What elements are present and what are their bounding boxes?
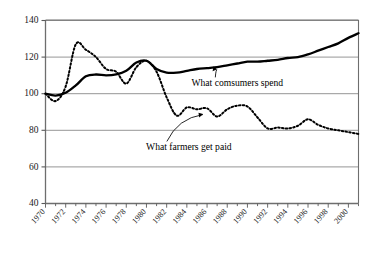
x-tick-label-1978: 1978: [110, 207, 128, 225]
x-tick-label-1970: 1970: [29, 207, 47, 225]
x-tick-label-1988: 1988: [211, 207, 229, 225]
x-tick-label-1972: 1972: [50, 207, 68, 225]
x-tick-label-group-1994: 1994: [272, 207, 290, 225]
x-tick-label-group-1980: 1980: [130, 207, 148, 225]
x-tick-label-group-1970: 1970: [29, 207, 47, 225]
x-tick-label-group-1986: 1986: [191, 207, 209, 225]
x-tick-label-1982: 1982: [151, 207, 169, 225]
annotation-arrowhead-farmers: [198, 113, 203, 118]
x-tick-label-1996: 1996: [292, 207, 310, 225]
x-tick-label-group-1976: 1976: [90, 207, 108, 225]
x-tick-label-1976: 1976: [90, 207, 108, 225]
chart-container: 406080100120140 197019721974197619781980…: [0, 0, 376, 262]
y-tick-label-80: 80: [29, 125, 39, 135]
annotation-label-farmers: What farmers get paid: [146, 141, 232, 152]
x-tick-label-group-1998: 1998: [312, 207, 330, 225]
x-tick-label-1990: 1990: [231, 207, 249, 225]
series-annotations: What comsumers spendWhat farmers get pai…: [146, 66, 283, 152]
x-tick-label-1980: 1980: [130, 207, 148, 225]
x-tick-label-1984: 1984: [171, 207, 189, 225]
y-tick-label-40: 40: [29, 198, 39, 208]
x-tick-label-1992: 1992: [251, 207, 269, 225]
line-chart: 406080100120140 197019721974197619781980…: [0, 0, 376, 262]
y-tick-label-60: 60: [29, 162, 39, 172]
x-axis-tick-labels: 1970197219741976197819801982198419861988…: [29, 207, 350, 225]
x-tick-label-group-1992: 1992: [251, 207, 269, 225]
x-tick-label-2000: 2000: [332, 207, 350, 225]
x-tick-label-1986: 1986: [191, 207, 209, 225]
x-tick-label-group-1982: 1982: [151, 207, 169, 225]
x-tick-label-group-1978: 1978: [110, 207, 128, 225]
y-tick-label-100: 100: [24, 88, 39, 98]
x-tick-label-group-1974: 1974: [70, 207, 88, 225]
x-tick-label-group-1990: 1990: [231, 207, 249, 225]
annotation-arrow-consumers: [215, 70, 217, 78]
x-tick-label-1994: 1994: [272, 207, 290, 225]
x-tick-label-1998: 1998: [312, 207, 330, 225]
annotation-arrow-farmers: [167, 115, 203, 142]
x-tick-label-group-1972: 1972: [50, 207, 68, 225]
y-tick-label-140: 140: [24, 15, 39, 25]
y-tick-label-120: 120: [24, 52, 39, 62]
x-tick-label-group-2000: 2000: [332, 207, 350, 225]
x-tick-label-group-1984: 1984: [171, 207, 189, 225]
annotation-consumers: What comsumers spend: [192, 66, 284, 88]
x-tick-label-1974: 1974: [70, 207, 88, 225]
annotation-farmers: What farmers get paid: [146, 113, 232, 153]
annotation-label-consumers: What comsumers spend: [192, 77, 284, 88]
x-tick-label-group-1996: 1996: [292, 207, 310, 225]
y-axis-tick-labels: 406080100120140: [24, 15, 39, 208]
x-tick-label-group-1988: 1988: [211, 207, 229, 225]
plot-frame: [46, 20, 359, 204]
